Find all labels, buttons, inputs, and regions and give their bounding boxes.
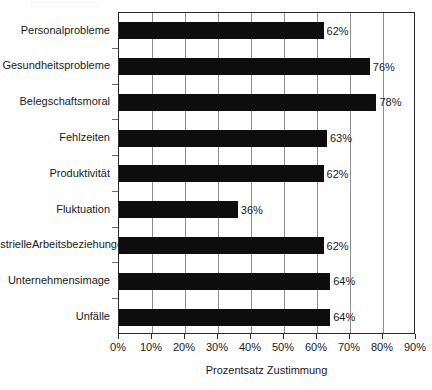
bar-row: 62% bbox=[119, 228, 414, 264]
bar: 76% bbox=[119, 58, 370, 75]
x-axis-tick-label: 40% bbox=[239, 340, 261, 354]
bar: 64% bbox=[119, 309, 330, 326]
x-axis-tick-label: 80% bbox=[371, 340, 393, 354]
x-axis-tick-labels: 0%10%20%30%40%50%60%70%80%90% bbox=[118, 340, 415, 356]
bar-rows: 62%76%78%63%62%36%62%64%64% bbox=[119, 13, 414, 333]
category-label: Produktivität bbox=[0, 155, 114, 191]
plot-area: 62%76%78%63%62%36%62%64%64% bbox=[118, 12, 415, 334]
category-label: Unfälle bbox=[0, 298, 114, 334]
bar: 36% bbox=[119, 201, 238, 218]
x-axis-tick-label: 90% bbox=[404, 340, 426, 354]
bar-row: 36% bbox=[119, 192, 414, 228]
category-label: Fluktuation bbox=[0, 191, 114, 227]
x-axis-tick-label: 30% bbox=[206, 340, 228, 354]
x-axis-tick bbox=[349, 334, 350, 339]
bar-value-label: 78% bbox=[379, 97, 401, 108]
x-axis-ticks bbox=[118, 334, 415, 339]
x-axis-tick bbox=[316, 334, 317, 339]
category-label: Gesundheitsprobleme bbox=[0, 48, 114, 84]
x-axis-tick bbox=[217, 334, 218, 339]
x-axis-tick bbox=[382, 334, 383, 339]
x-axis-tick-label: 10% bbox=[140, 340, 162, 354]
bar: 64% bbox=[119, 273, 330, 290]
category-label: Fehlzeiten bbox=[0, 119, 114, 155]
bar-value-label: 64% bbox=[333, 312, 355, 323]
bar-value-label: 62% bbox=[327, 168, 349, 179]
bar-row: 64% bbox=[119, 263, 414, 299]
bar: 62% bbox=[119, 237, 324, 254]
x-axis-tick-label: 20% bbox=[173, 340, 195, 354]
scan-artifact bbox=[30, 1, 100, 8]
bar: 62% bbox=[119, 22, 324, 39]
category-axis-labels: PersonalproblemeGesundheitsproblemeBeleg… bbox=[0, 12, 114, 334]
category-label: Unternehmensimage bbox=[0, 262, 114, 298]
bar-value-label: 62% bbox=[327, 240, 349, 251]
x-axis-tick-label: 0% bbox=[110, 340, 126, 354]
x-axis-tick-label: 60% bbox=[305, 340, 327, 354]
bar-row: 64% bbox=[119, 299, 414, 335]
category-label: Belegschaftsmoral bbox=[0, 84, 114, 120]
bar-row: 63% bbox=[119, 120, 414, 156]
x-axis-tick-label: 50% bbox=[272, 340, 294, 354]
x-axis-tick-label: 70% bbox=[338, 340, 360, 354]
bar-value-label: 63% bbox=[330, 133, 352, 144]
bar: 62% bbox=[119, 165, 324, 182]
x-axis-tick bbox=[118, 334, 119, 339]
bar: 63% bbox=[119, 130, 327, 147]
x-axis-tick bbox=[415, 334, 416, 339]
category-label: IndustrielleArbeitsbeziehungen bbox=[0, 227, 114, 263]
x-axis-tick bbox=[151, 334, 152, 339]
x-axis-tick bbox=[283, 334, 284, 339]
category-label: Personalprobleme bbox=[0, 12, 114, 48]
horizontal-bar-chart: PersonalproblemeGesundheitsproblemeBeleg… bbox=[0, 0, 432, 390]
bar-row: 78% bbox=[119, 85, 414, 121]
bar-value-label: 62% bbox=[327, 25, 349, 36]
bar-row: 62% bbox=[119, 156, 414, 192]
bar: 78% bbox=[119, 94, 376, 111]
bar-row: 76% bbox=[119, 49, 414, 85]
x-axis-tick bbox=[184, 334, 185, 339]
bar-value-label: 64% bbox=[333, 276, 355, 287]
bar-value-label: 36% bbox=[241, 204, 263, 215]
bar-row: 62% bbox=[119, 13, 414, 49]
x-axis-title: Prozentsatz Zustimmung bbox=[118, 364, 415, 376]
x-axis-tick bbox=[250, 334, 251, 339]
bar-value-label: 76% bbox=[373, 61, 395, 72]
